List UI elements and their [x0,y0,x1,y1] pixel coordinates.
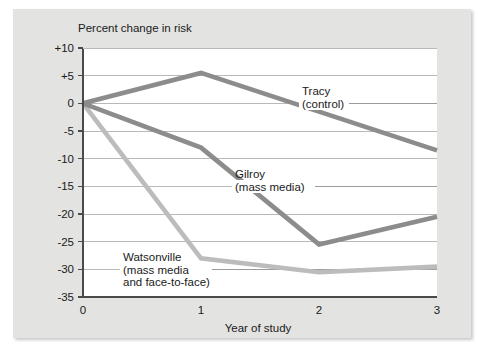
y-tick-label: +5 [61,70,74,82]
y-tick-label: -35 [57,291,74,303]
y-tick-label: -10 [57,153,74,165]
y-tick-label: -5 [64,125,74,137]
y-tick-label: -25 [57,236,74,248]
chart-figure: +10 +5 0 -5 -10 -15 -20 -25 -30 -35 0 1 … [0,0,490,357]
annotation-tracy-line2-top: (control) [302,98,344,110]
annotation-gilroy-line1: Gilroy [235,168,265,180]
y-tick-labels: +10 +5 0 -5 -10 -15 -20 -25 -30 -35 [54,42,74,303]
y-tick-label: -20 [57,208,74,220]
x-tick-label: 2 [316,304,322,316]
x-tick-label: 1 [198,304,204,316]
plot-area-wrapper: +10 +5 0 -5 -10 -15 -20 -25 -30 -35 0 1 … [0,0,490,357]
y-axis-title: Percent change in risk [78,22,192,34]
annotation-watsonville-line3: and face-to-face) [123,276,210,288]
x-tick-label: 3 [434,304,440,316]
y-tick-label: -15 [57,180,74,192]
y-tick-label: -30 [57,263,74,275]
annotation-watsonville-line2-top: (mass media [123,264,189,276]
y-tickmarks [78,48,83,297]
line-chart-svg: +10 +5 0 -5 -10 -15 -20 -25 -30 -35 0 1 … [0,0,490,357]
annotation-watsonville-line1: Watsonville [123,251,181,263]
annotation-tracy-line1: Tracy [302,85,331,97]
annotation-gilroy-line2-top: (mass media) [235,181,305,193]
y-tick-label: 0 [68,97,74,109]
y-tick-label: +10 [54,42,74,54]
x-axis-title: Year of study [225,322,292,334]
x-tick-labels: 0 1 2 3 [80,304,440,316]
x-tick-label: 0 [80,304,86,316]
